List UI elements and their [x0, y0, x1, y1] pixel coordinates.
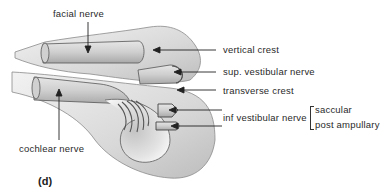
lower-canal — [12, 72, 215, 178]
inner-ear-illustration — [0, 0, 388, 194]
label-cochlear-nerve: cochlear nerve — [19, 144, 84, 154]
label-post-ampullary: post ampullary — [315, 120, 380, 130]
label-vertical-crest: vertical crest — [223, 45, 279, 55]
label-sup-vestibular-nerve: sup. vestibular nerve — [223, 67, 315, 77]
label-transverse-crest: transverse crest — [223, 86, 294, 96]
label-inf-vestibular-nerve: inf vestibular nerve — [223, 113, 307, 123]
panel-label: (d) — [38, 175, 52, 187]
label-saccular: saccular — [315, 105, 352, 115]
label-bracket — [310, 106, 314, 130]
label-facial-nerve: facial nerve — [53, 9, 104, 19]
